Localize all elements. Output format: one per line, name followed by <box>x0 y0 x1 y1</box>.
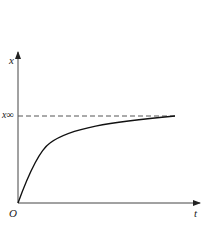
x-axis-label: t <box>194 207 197 219</box>
chart-canvas <box>0 0 209 226</box>
growth-curve <box>18 116 175 203</box>
asymptote-label: x∞ <box>2 109 14 120</box>
origin-label: O <box>9 207 17 219</box>
y-axis-label: x <box>9 54 14 66</box>
